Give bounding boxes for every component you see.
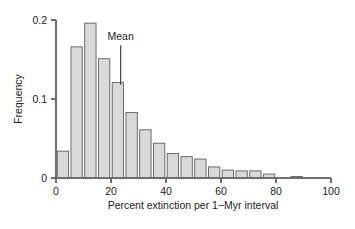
x-tick-label: 80 <box>270 185 282 197</box>
histogram-bar <box>126 112 137 178</box>
x-axis-title: Percent extinction per 1−Myr interval <box>108 199 279 211</box>
histogram-figure: Mean 00.10.2 020406080100 Frequency Perc… <box>0 0 355 229</box>
x-tick-label: 0 <box>53 185 59 197</box>
histogram-bar <box>263 174 274 178</box>
y-axis: 00.10.2 <box>32 14 56 184</box>
mean-annotation-group: Mean <box>107 30 133 85</box>
histogram-bar <box>98 59 109 178</box>
histogram-plot: Mean 00.10.2 020406080100 Frequency Perc… <box>0 0 355 229</box>
histogram-bar <box>181 157 192 178</box>
histogram-bar <box>153 143 164 178</box>
histogram-bar <box>222 170 233 178</box>
x-tick-label: 20 <box>105 185 117 197</box>
histogram-bar <box>167 154 178 178</box>
histogram-bar <box>236 171 247 178</box>
x-tick-label: 60 <box>215 185 227 197</box>
x-tick-group: 020406080100 <box>53 178 340 197</box>
y-tick-label: 0.2 <box>32 14 47 26</box>
histogram-bar <box>57 151 68 178</box>
x-tick-label: 100 <box>322 185 340 197</box>
histogram-bar <box>208 167 219 178</box>
bars-group <box>57 23 302 178</box>
x-axis: 020406080100 <box>53 178 340 197</box>
histogram-bar <box>85 23 96 178</box>
histogram-bar <box>140 130 151 178</box>
x-tick-label: 40 <box>160 185 172 197</box>
histogram-bar <box>250 171 261 178</box>
histogram-bar <box>112 82 123 178</box>
y-tick-label: 0 <box>41 172 47 184</box>
mean-label: Mean <box>107 30 133 42</box>
y-tick-label: 0.1 <box>32 93 47 105</box>
histogram-bar <box>71 47 82 178</box>
histogram-bar <box>195 159 206 178</box>
y-axis-title: Frequency <box>12 73 24 123</box>
y-tick-group: 00.10.2 <box>32 14 56 184</box>
